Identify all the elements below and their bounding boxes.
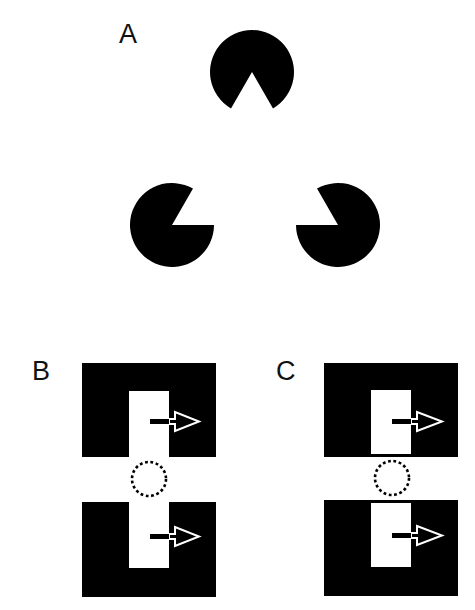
panel-label-a: A xyxy=(119,19,137,49)
figure-canvas: A B C xyxy=(0,0,475,610)
panel-label-c: C xyxy=(276,356,296,386)
panel-label-b: B xyxy=(32,356,50,386)
